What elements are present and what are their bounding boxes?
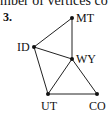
vertex-mt	[70, 16, 74, 20]
label-wy: WY	[76, 53, 96, 65]
label-mt: MT	[76, 12, 94, 24]
edge-wy-ut	[48, 59, 72, 94]
edge-id-wy	[34, 47, 72, 59]
edge-id-mt	[34, 18, 72, 47]
label-id: ID	[17, 41, 30, 53]
vertex-ut	[46, 92, 50, 96]
label-co: CO	[89, 100, 106, 112]
label-ut: UT	[41, 100, 57, 112]
edge-id-ut	[34, 47, 48, 94]
vertex-id	[32, 45, 36, 49]
vertex-wy	[70, 57, 74, 61]
vertex-co	[95, 92, 99, 96]
